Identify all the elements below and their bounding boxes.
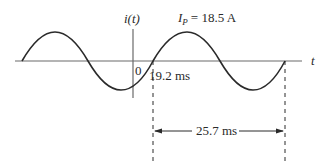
arrowhead-right-icon	[276, 129, 284, 134]
origin-label: 0	[135, 63, 142, 78]
period-label: 25.7 ms	[196, 123, 237, 138]
peak-current-value: = 18.5 A	[191, 10, 237, 25]
y-axis-label: i(t)	[124, 11, 140, 26]
zero-crossing-label: 19.2 ms	[149, 68, 190, 83]
x-axis-label: t	[311, 53, 315, 68]
peak-current-subscript: P	[181, 17, 188, 27]
peak-current-label: IP= 18.5 A	[177, 10, 237, 27]
waveform-diagram: i(t) t 0 19.2 ms 25.7 ms IP= 18.5 A	[0, 0, 328, 162]
arrowhead-left-icon	[154, 129, 162, 134]
